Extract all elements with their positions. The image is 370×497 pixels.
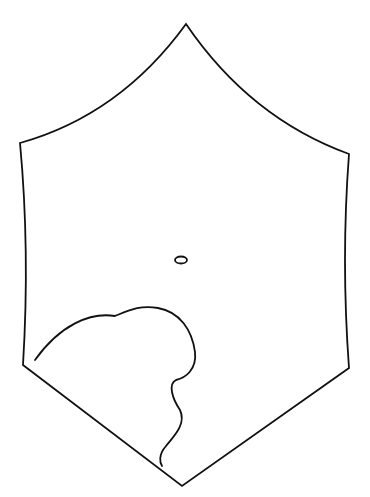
small-ellipse (175, 257, 187, 264)
diagram-canvas (0, 0, 370, 497)
diagram-svg (0, 0, 370, 497)
inner-curve (35, 307, 195, 466)
hexagon-outline (20, 24, 349, 486)
